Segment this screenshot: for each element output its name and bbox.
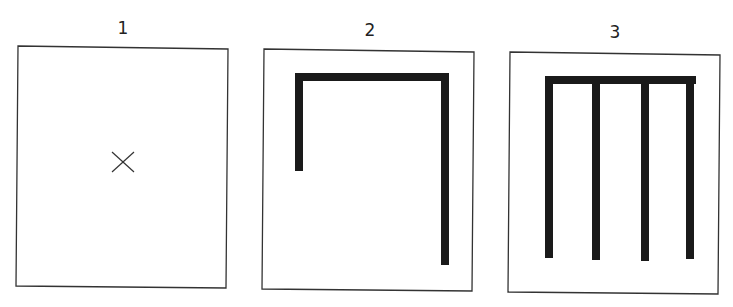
panel-1-label: 1 — [118, 18, 129, 38]
panel-2-label: 2 — [365, 20, 376, 40]
comb-leg-4 — [686, 76, 694, 259]
panel-1: 1 — [16, 18, 228, 288]
comb-leg-2 — [592, 78, 600, 260]
bracket-right-leg — [441, 73, 449, 265]
panel-2: 2 — [262, 20, 474, 291]
comb-top-bar — [546, 76, 696, 84]
comb-leg-3 — [641, 78, 649, 261]
panel-3-label: 3 — [610, 22, 621, 42]
cross-mark-icon — [112, 152, 134, 172]
diagram-canvas: 1 2 3 — [0, 0, 733, 307]
bracket-shape — [295, 73, 449, 265]
comb-shape — [545, 76, 696, 261]
bracket-left-leg — [295, 73, 303, 171]
bracket-top-bar — [296, 73, 449, 81]
panel-3: 3 — [508, 22, 720, 294]
comb-leg-1 — [545, 76, 553, 258]
panel-1-frame — [16, 46, 228, 288]
